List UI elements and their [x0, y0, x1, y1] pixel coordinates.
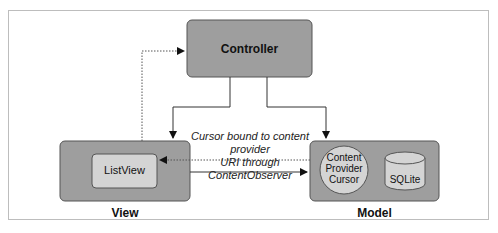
- view-label: View: [60, 206, 190, 220]
- annotation-line-1: Cursor bound to content provider: [180, 130, 320, 156]
- controller-to-view-arrow: [173, 77, 230, 138]
- content-provider-label: Content Provider Cursor: [320, 152, 368, 185]
- content-provider-line-2: Provider: [320, 163, 368, 174]
- content-provider-line-3: Cursor: [320, 174, 368, 185]
- view-to-controller-dotted-arrow: [142, 51, 184, 141]
- annotation: Cursor bound to content provider URI thr…: [180, 130, 320, 182]
- controller-to-model-arrow: [267, 77, 326, 138]
- model-label: Model: [310, 206, 439, 220]
- controller-label: Controller: [187, 42, 312, 56]
- diagram-canvas: [0, 0, 498, 233]
- listview-label: ListView: [92, 164, 157, 176]
- content-provider-line-1: Content: [320, 152, 368, 163]
- annotation-line-2: URI through ContentObserver: [180, 156, 320, 182]
- sqlite-label: SQLite: [385, 174, 425, 185]
